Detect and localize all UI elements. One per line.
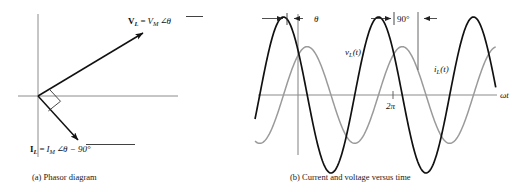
voltage-curve-argument: (t) [353, 47, 362, 57]
current-phasor-arrow [38, 96, 78, 140]
current-phasor-label: IL=IM∠θ − 90° [30, 144, 135, 155]
current-phasor-magnitude-subscript: M [49, 148, 56, 155]
voltage-phasor-arrow [38, 33, 143, 96]
two-pi-tick-label: 2π [386, 101, 396, 111]
right-angle-marker-icon [48, 89, 60, 111]
voltage-phasor-label: VL=VM∠θ [128, 16, 203, 27]
svg-text:vL(t): vL(t) [345, 47, 361, 58]
panel-a-caption: (a) Phasor diagram [32, 172, 97, 182]
svg-text:IL=IM∠θ − 90°: IL=IM∠θ − 90° [30, 144, 91, 155]
waveform-panel: 2π ωt vL(t) iL(t) θ 90° [255, 12, 509, 173]
current-phasor-subscript: L [33, 148, 38, 155]
figure-phasor-and-waveforms: VL=VM∠θ IL=IM∠θ − 90° 2π ωt vL(t) [0, 0, 519, 192]
ninety-degree-dimension-annotation: 90° [371, 12, 437, 70]
voltage-curve-label: vL(t) [345, 47, 361, 58]
current-curve-argument: (t) [440, 64, 449, 74]
current-phasor-angle-value: θ − 90° [63, 144, 91, 154]
voltage-phasor-magnitude-subscript: M [152, 20, 159, 27]
current-phasor-equals: = [40, 144, 45, 154]
voltage-phasor-equals: = [140, 16, 145, 26]
panel-b-caption: (b) Current and voltage versus time [290, 172, 411, 182]
svg-text:iL(t): iL(t) [434, 64, 449, 75]
voltage-phasor-angle-value: θ [167, 16, 172, 26]
current-curve-label: iL(t) [434, 64, 449, 75]
theta-dimension-annotation: θ [262, 13, 319, 25]
voltage-phasor-subscript: L [134, 20, 139, 27]
theta-dimension-label: θ [314, 14, 319, 24]
omega-t-axis-label: ωt [500, 90, 509, 100]
phasor-diagram-panel: VL=VM∠θ IL=IM∠θ − 90° [18, 14, 203, 157]
svg-text:VL=VM∠θ: VL=VM∠θ [128, 16, 172, 27]
ninety-degree-dimension-label: 90° [397, 14, 410, 24]
